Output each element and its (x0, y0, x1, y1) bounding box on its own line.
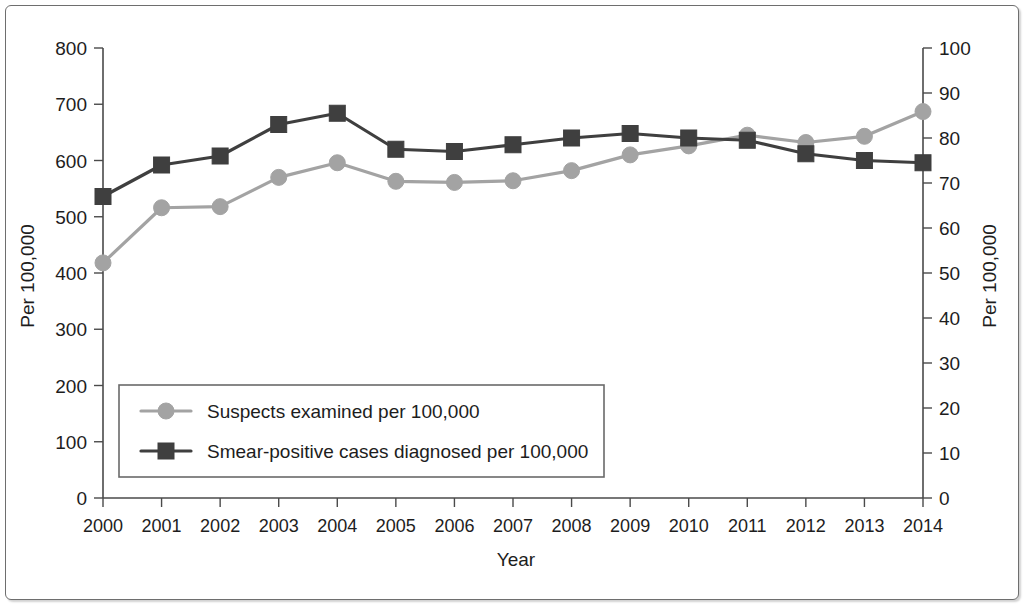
data-point-marker (271, 117, 287, 133)
right-axis-tick-label: 50 (939, 263, 960, 284)
right-axis-tick-label: 40 (939, 308, 960, 329)
legend-item-label: Smear-positive cases diagnosed per 100,0… (207, 441, 588, 462)
x-axis-tick-label: 2013 (844, 516, 884, 536)
data-point-marker (915, 104, 931, 120)
x-axis-tick-label: 2003 (259, 516, 299, 536)
data-point-marker (388, 141, 404, 157)
left-axis-title: Per 100,000 (17, 224, 38, 328)
x-axis-tick-label: 2011 (728, 516, 767, 536)
left-axis-tick-label: 300 (55, 319, 87, 340)
data-point-marker (154, 200, 170, 216)
right-axis-title: Per 100,000 (979, 224, 1000, 328)
data-point-marker (446, 144, 462, 160)
x-axis-tick-label: 2010 (669, 516, 709, 536)
data-point-marker (505, 173, 521, 189)
data-point-marker (505, 137, 521, 153)
data-point-marker (798, 146, 814, 162)
right-axis-tick-label: 60 (939, 218, 960, 239)
legend-square-marker-icon (158, 443, 174, 459)
figure-frame: 0100200300400500600700800 01020304050607… (5, 5, 1019, 600)
data-point-marker (564, 163, 580, 179)
data-point-marker (329, 105, 345, 121)
x-axis-tick-label: 2006 (434, 516, 474, 536)
data-point-marker (388, 173, 404, 189)
data-point-marker (622, 147, 638, 163)
x-axis-tick-label: 2012 (786, 516, 826, 536)
data-point-marker (564, 130, 580, 146)
right-axis-tick-label: 30 (939, 353, 960, 374)
x-axis-tick-label: 2002 (200, 516, 240, 536)
legend-box (119, 385, 604, 477)
data-point-marker (446, 174, 462, 190)
x-axis-tick-label: 2004 (317, 516, 357, 536)
data-point-marker (622, 126, 638, 142)
left-y-axis: 0100200300400500600700800 (55, 38, 103, 509)
dual-axis-line-chart: 0100200300400500600700800 01020304050607… (6, 6, 1020, 601)
right-axis-tick-label: 90 (939, 83, 960, 104)
right-axis-tick-label: 100 (939, 38, 971, 59)
x-axis-title: Year (497, 549, 536, 570)
data-point-marker (212, 148, 228, 164)
chart-legend: Suspects examined per 100,000Smear-posit… (119, 385, 604, 477)
right-axis-tick-label: 10 (939, 443, 960, 464)
left-axis-tick-label: 500 (55, 207, 87, 228)
x-axis-tick-label: 2007 (493, 516, 533, 536)
right-axis-tick-label: 20 (939, 398, 960, 419)
data-point-marker (271, 169, 287, 185)
data-point-marker (739, 132, 755, 148)
left-axis-tick-label: 100 (55, 432, 87, 453)
left-axis-tick-label: 0 (76, 488, 87, 509)
data-point-marker (681, 130, 697, 146)
left-axis-tick-label: 700 (55, 94, 87, 115)
data-point-marker (856, 128, 872, 144)
x-axis-tick-label: 2000 (83, 516, 123, 536)
left-axis-tick-label: 200 (55, 376, 87, 397)
left-axis-tick-label: 400 (55, 263, 87, 284)
data-point-marker (154, 157, 170, 173)
legend-circle-marker-icon (158, 403, 174, 419)
right-axis-tick-label: 70 (939, 173, 960, 194)
x-axis: 2000200120022003200420052006200720082009… (83, 498, 943, 536)
data-point-marker (95, 189, 111, 205)
x-axis-tick-label: 2014 (903, 516, 943, 536)
chart-canvas: 0100200300400500600700800 01020304050607… (6, 6, 1020, 601)
right-axis-tick-label: 80 (939, 128, 960, 149)
data-point-marker (856, 153, 872, 169)
data-point-marker (915, 155, 931, 171)
x-axis-tick-label: 2005 (376, 516, 416, 536)
right-axis-tick-label: 0 (939, 488, 950, 509)
series-layer (95, 104, 931, 271)
x-axis-tick-label: 2001 (142, 516, 182, 536)
legend-item-label: Suspects examined per 100,000 (207, 401, 480, 422)
data-point-marker (95, 255, 111, 271)
x-axis-tick-label: 2009 (610, 516, 650, 536)
left-axis-tick-label: 600 (55, 151, 87, 172)
data-point-marker (212, 199, 228, 215)
x-axis-tick-label: 2008 (552, 516, 592, 536)
left-axis-tick-label: 800 (55, 38, 87, 59)
data-point-marker (329, 155, 345, 171)
